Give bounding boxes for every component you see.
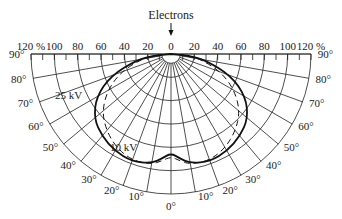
angle-label: 20° bbox=[104, 184, 119, 196]
label-25kv: 25 kV bbox=[55, 89, 82, 101]
angle-label: 60° bbox=[28, 120, 43, 132]
angle-label: 70° bbox=[18, 97, 33, 109]
angle-label: 10° bbox=[128, 190, 143, 202]
r-tick-label: 80 bbox=[259, 40, 271, 52]
angle-label-zero: 0° bbox=[166, 200, 176, 212]
grid-spoke bbox=[174, 63, 219, 186]
grid-spoke bbox=[123, 63, 168, 186]
r-tick-label: 40 bbox=[212, 40, 224, 52]
r-tick-label-zero: 0 bbox=[168, 40, 174, 52]
label-10kv: 10 kV bbox=[110, 141, 137, 153]
angle-label: 90° bbox=[318, 48, 333, 60]
grid-spoke bbox=[177, 61, 261, 161]
angle-label: 80° bbox=[11, 73, 26, 85]
grid-spoke bbox=[178, 60, 278, 144]
down-arrow-icon bbox=[169, 23, 174, 36]
grid-spoke bbox=[179, 59, 292, 124]
radial-tick-labels: 120 %10080604020020406080100120 % bbox=[17, 40, 325, 52]
r-tick-label: 100 bbox=[279, 40, 296, 52]
angle-label: 40° bbox=[266, 159, 281, 171]
angle-label: 30° bbox=[245, 173, 260, 185]
angle-label: 80° bbox=[315, 73, 330, 85]
polar-grid bbox=[31, 54, 311, 194]
angle-label: 60° bbox=[298, 120, 313, 132]
polar-diagram: Electrons 120 %1008060402002040608010012… bbox=[0, 0, 342, 219]
r-tick-label: 80 bbox=[72, 40, 84, 52]
r-tick-label: 20 bbox=[142, 40, 154, 52]
r-tick-label: 20 bbox=[189, 40, 201, 52]
angle-label: 50° bbox=[43, 141, 58, 153]
angle-label: 10° bbox=[198, 190, 213, 202]
grid-spoke bbox=[64, 60, 164, 144]
angle-label: 30° bbox=[81, 173, 96, 185]
angle-label: 40° bbox=[61, 159, 76, 171]
angle-label: 70° bbox=[309, 97, 324, 109]
grid-spoke bbox=[147, 63, 170, 192]
title-electrons: Electrons bbox=[148, 8, 194, 22]
r-tick-label: 100 bbox=[46, 40, 63, 52]
angle-label: 90° bbox=[9, 48, 24, 60]
r-tick-label: 60 bbox=[96, 40, 108, 52]
angle-label: 20° bbox=[222, 184, 237, 196]
r-tick-label: 40 bbox=[119, 40, 131, 52]
angle-label: 50° bbox=[284, 141, 299, 153]
grid-spoke bbox=[180, 57, 303, 102]
grid-spoke bbox=[173, 63, 196, 192]
r-tick-label: 60 bbox=[236, 40, 248, 52]
